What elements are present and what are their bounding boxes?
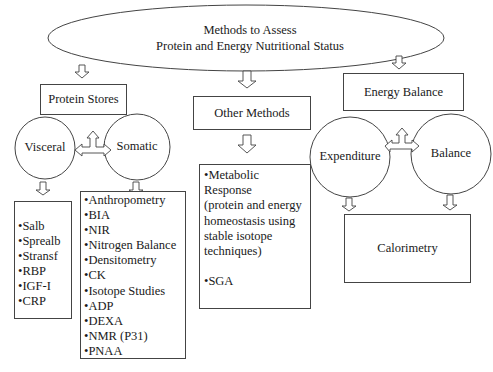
energy-balance-box: Energy Balance (343, 73, 464, 111)
detail-line: •SGA (204, 274, 306, 289)
list-item: •NIR (84, 223, 185, 238)
list-item: •BIA (84, 208, 185, 223)
list-item: •NMR (P31) (84, 329, 185, 344)
arrow-down-icon (238, 135, 256, 153)
arrow-down-icon (443, 195, 457, 210)
list-item: •Stransf (18, 249, 71, 264)
somatic-methods-box: •Anthropometry •BIA •NIR •Nitrogen Balan… (80, 191, 186, 359)
list-item: •Densitometry (84, 253, 185, 268)
visceral-label: Visceral (15, 140, 75, 155)
expenditure-label: Expenditure (312, 149, 388, 164)
list-item: •RBP (18, 264, 71, 279)
somatic-methods-list: •Anthropometry •BIA •NIR •Nitrogen Balan… (81, 193, 185, 359)
title-line-1: Methods to Assess (130, 22, 370, 38)
diagram-title: Methods to Assess Protein and Energy Nut… (130, 22, 370, 54)
arrow-down-icon (36, 182, 50, 195)
protein-stores-box: Protein Stores (40, 84, 127, 115)
list-item: •CRP (18, 294, 71, 309)
arrow-down-icon (75, 65, 89, 78)
other-methods-label: Other Methods (214, 106, 289, 121)
visceral-markers-list: •Salb •Sprealb •Stransf •RBP •IGF-I •CRP (15, 219, 71, 310)
list-item: •Salb (18, 219, 71, 234)
title-line-2: Protein and Energy Nutritional Status (130, 38, 370, 54)
list-item: •IGF-I (18, 279, 71, 294)
detail-spacer (204, 259, 306, 274)
detail-line: homeostasis using (204, 214, 306, 229)
list-item: •ADP (84, 299, 185, 314)
detail-line: stable isotope (204, 229, 306, 244)
list-item: •DEXA (84, 314, 185, 329)
list-item: •Isotope Studies (84, 284, 185, 299)
balance-label: Balance (415, 146, 487, 161)
other-methods-details-box: •Metabolic Response (protein and energy … (199, 164, 311, 309)
list-item: •Anthropometry (84, 193, 185, 208)
somatic-label: Somatic (104, 139, 170, 154)
list-item: •PNAA (84, 344, 185, 359)
arrow-down-icon (238, 71, 256, 88)
detail-line: techniques) (204, 244, 306, 259)
other-methods-box: Other Methods (193, 96, 311, 130)
protein-stores-label: Protein Stores (48, 92, 118, 107)
list-item: •CK (84, 268, 185, 283)
detail-line: (protein and energy (204, 198, 306, 213)
arrow-down-icon (342, 198, 356, 211)
list-item: •Sprealb (18, 234, 71, 249)
visceral-markers-box: •Salb •Sprealb •Stransf •RBP •IGF-I •CRP (14, 201, 72, 319)
list-item: •Nitrogen Balance (84, 238, 185, 253)
calorimetry-label: Calorimetry (377, 241, 437, 256)
calorimetry-box: Calorimetry (344, 214, 471, 283)
detail-line: •Metabolic Response (204, 168, 306, 198)
energy-balance-label: Energy Balance (364, 85, 443, 100)
